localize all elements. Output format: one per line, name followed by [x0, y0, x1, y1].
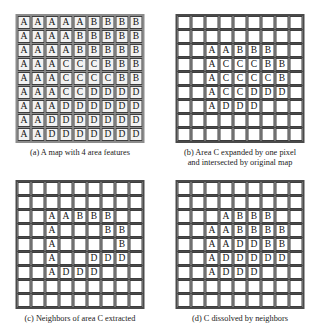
map-cell: D [102, 114, 115, 127]
map-cell [18, 224, 31, 237]
map-cell: B [88, 44, 101, 57]
map-cell [276, 294, 289, 307]
map-cell [206, 128, 219, 141]
map-cell [192, 100, 205, 113]
map-cell [290, 58, 303, 71]
map-cell [192, 182, 205, 195]
map-cell [60, 224, 73, 237]
map-cell [32, 196, 45, 209]
map-cell [130, 224, 143, 237]
figure-panel-d: ABBBAABBBBAADDBBADDDDDADDD (d) C dissolv… [160, 166, 320, 331]
map-cell: B [248, 44, 261, 57]
map-cell [220, 182, 233, 195]
map-cell [18, 238, 31, 251]
map-cell: D [74, 114, 87, 127]
map-cell: A [206, 238, 219, 251]
map-cell [102, 294, 115, 307]
map-cell: A [18, 44, 31, 57]
map-cell [290, 196, 303, 209]
map-cell: B [248, 210, 261, 223]
map-cell [116, 266, 129, 279]
map-cell: A [46, 210, 59, 223]
figure-panel-c: AABBBABBABADDDADDD (c) Neighbors of area… [0, 166, 160, 331]
map-cell [192, 86, 205, 99]
map-cell: B [116, 238, 129, 251]
map-cell: B [102, 30, 115, 43]
map-cell [32, 294, 45, 307]
map-cell: A [220, 238, 233, 251]
map-cell: B [116, 58, 129, 71]
map-cell [290, 100, 303, 113]
map-cell [178, 30, 191, 43]
map-cell: C [60, 72, 73, 85]
map-cell: C [234, 86, 247, 99]
map-cell [206, 182, 219, 195]
map-cell: D [116, 86, 129, 99]
map-cell [60, 196, 73, 209]
map-cell: D [74, 100, 87, 113]
map-cell: B [116, 44, 129, 57]
map-cell [60, 294, 73, 307]
map-cell [290, 252, 303, 265]
map-cell: A [32, 128, 45, 141]
map-cell [262, 280, 275, 293]
map-cell: B [116, 16, 129, 29]
map-cell [220, 294, 233, 307]
map-cell: D [74, 266, 87, 279]
map-cell: D [60, 100, 73, 113]
map-cell [102, 182, 115, 195]
map-cell [248, 294, 261, 307]
map-cell [206, 16, 219, 29]
map-cell: C [248, 72, 261, 85]
map-cell [192, 196, 205, 209]
map-cell: D [88, 128, 101, 141]
map-cell [178, 86, 191, 99]
map-cell [262, 128, 275, 141]
map-cell: B [262, 238, 275, 251]
map-cell [102, 266, 115, 279]
map-cell: C [102, 72, 115, 85]
map-cell: A [18, 100, 31, 113]
map-cell: A [60, 44, 73, 57]
map-cell [290, 16, 303, 29]
map-cell: C [74, 58, 87, 71]
map-cell: D [248, 86, 261, 99]
map-cell [178, 72, 191, 85]
map-cell: D [130, 86, 143, 99]
map-cell: C [248, 58, 261, 71]
map-cell: B [262, 58, 275, 71]
map-cell: B [88, 210, 101, 223]
map-cell: B [130, 44, 143, 57]
map-cell [234, 128, 247, 141]
map-cell: B [102, 16, 115, 29]
map-cell: D [262, 86, 275, 99]
map-cell [192, 58, 205, 71]
map-cell: C [74, 72, 87, 85]
map-cell [248, 128, 261, 141]
map-cell: A [74, 16, 87, 29]
map-cell [220, 196, 233, 209]
map-cell: B [102, 224, 115, 237]
map-cell: D [46, 114, 59, 127]
map-cell: C [220, 72, 233, 85]
map-cell: A [32, 86, 45, 99]
map-cell: A [32, 30, 45, 43]
map-cell: B [248, 224, 261, 237]
map-cell [276, 16, 289, 29]
map-cell [262, 100, 275, 113]
map-cell: D [248, 252, 261, 265]
map-cell [116, 280, 129, 293]
map-cell [276, 128, 289, 141]
map-cell: A [60, 16, 73, 29]
map-cell: A [32, 44, 45, 57]
map-cell [234, 16, 247, 29]
map-cell: D [88, 86, 101, 99]
map-cell [18, 280, 31, 293]
map-cell: D [88, 114, 101, 127]
map-cell [192, 30, 205, 43]
map-cell [248, 16, 261, 29]
map-cell [234, 196, 247, 209]
map-cell: C [220, 86, 233, 99]
map-cell: D [60, 114, 73, 127]
map-cell [234, 280, 247, 293]
